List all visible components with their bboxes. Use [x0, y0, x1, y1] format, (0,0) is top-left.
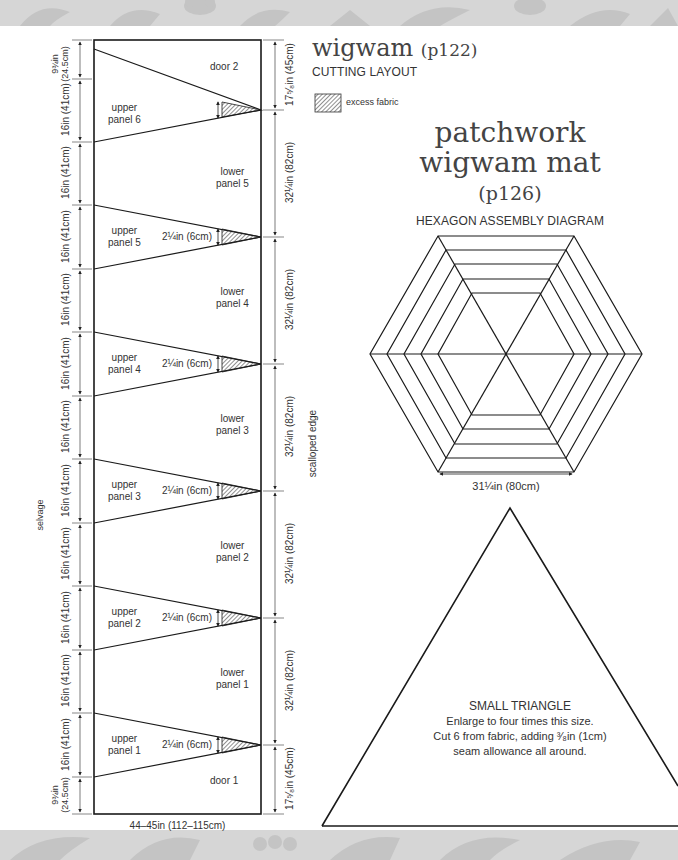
legend-label: excess fabric — [346, 97, 399, 107]
small-triangle-outline — [322, 508, 678, 826]
upper-panel-2-label: upperpanel 2 — [108, 606, 141, 630]
upper-panel-4-label: upperpanel 4 — [108, 352, 141, 376]
lower-panel-3-label: lowerpanel 3 — [216, 413, 249, 437]
door-2-label: door 2 — [210, 61, 238, 73]
upper-panel-6-label: upperpanel 6 — [108, 102, 141, 126]
dim-right-1: 17⁵⁄₈in (45cm) — [284, 40, 295, 110]
dim-right-3: 32¼in (82cm) — [284, 265, 295, 335]
triangle-line-3: seam allowance all around. — [380, 744, 660, 759]
lower-panel-5-label: lowerpanel 5 — [216, 166, 249, 190]
dim-right-7: 17⁵⁄₈in (45cm) — [284, 744, 295, 814]
left-dimension-lines — [72, 40, 92, 814]
excess-label-1: 2¼in (6cm) — [162, 739, 212, 751]
hexagon-assembly-diagram — [370, 236, 642, 472]
hexagon-heading: HEXAGON ASSEMBLY DIAGRAM — [350, 214, 670, 228]
fabric-width-label: 44–45in (112–115cm) — [94, 820, 261, 832]
lower-panel-4-label: lowerpanel 4 — [216, 286, 249, 310]
dim-right-6: 32¼in (82cm) — [284, 646, 295, 716]
triangle-line-2: Cut 6 from fabric, adding ³⁄₈in (1cm) — [380, 729, 660, 744]
small-triangle-instructions: SMALL TRIANGLE Enlarge to four times thi… — [380, 699, 660, 759]
right-dimension-lines — [263, 40, 284, 814]
dim-left-7: 16in (41cm) — [60, 461, 71, 521]
dim-right-5: 32¼in (82cm) — [284, 519, 295, 589]
dim-left-bottom: 9¾in(24.5cm) — [50, 765, 70, 825]
scalloped-edge-label: scalloped edge — [307, 404, 318, 484]
hatched-swatch-icon — [315, 94, 341, 112]
door-1-label: door 1 — [210, 775, 238, 787]
dim-left-1: 16in (41cm) — [60, 80, 71, 140]
small-triangle-heading: SMALL TRIANGLE — [380, 699, 660, 714]
excess-label-2: 2¼in (6cm) — [162, 612, 212, 624]
dim-right-2: 32¼in (82cm) — [284, 138, 295, 208]
dim-right-4: 32¼in (82cm) — [284, 392, 295, 462]
wigwam-title: wigwam (p122) — [312, 34, 477, 62]
dim-left-10: 16in (41cm) — [60, 651, 71, 711]
dim-left-5: 16in (41cm) — [60, 334, 71, 394]
lower-panel-1-label: lowerpanel 1 — [216, 667, 249, 691]
lower-panel-2-label: lowerpanel 2 — [216, 540, 249, 564]
excess-label-3: 2¼in (6cm) — [162, 485, 212, 497]
selvage-label: selvage — [35, 495, 45, 535]
hexagon-width-label: 31¼in (80cm) — [406, 480, 606, 492]
excess-label-4: 2¼in (6cm) — [162, 358, 212, 370]
upper-panel-5-label: upperpanel 5 — [108, 225, 141, 249]
title-page-ref: (p122) — [421, 40, 478, 60]
dim-left-2: 16in (41cm) — [60, 143, 71, 203]
mat-title: patchworkwigwam mat — [350, 118, 670, 178]
upper-panel-1-label: upperpanel 1 — [108, 733, 141, 757]
title-main: wigwam — [312, 34, 413, 62]
cutting-layout-subtitle: CUTTING LAYOUT — [312, 65, 417, 79]
dim-left-6: 16in (41cm) — [60, 397, 71, 457]
dim-left-9: 16in (41cm) — [60, 588, 71, 648]
dim-left-4: 16in (41cm) — [60, 270, 71, 330]
triangle-line-1: Enlarge to four times this size. — [380, 714, 660, 729]
dim-left-3: 16in (41cm) — [60, 207, 71, 267]
excess-label-5: 2¼in (6cm) — [162, 231, 212, 243]
upper-panel-3-label: upperpanel 3 — [108, 479, 141, 503]
dim-left-8: 16in (41cm) — [60, 524, 71, 584]
mat-page-ref: (p126) — [350, 182, 670, 204]
